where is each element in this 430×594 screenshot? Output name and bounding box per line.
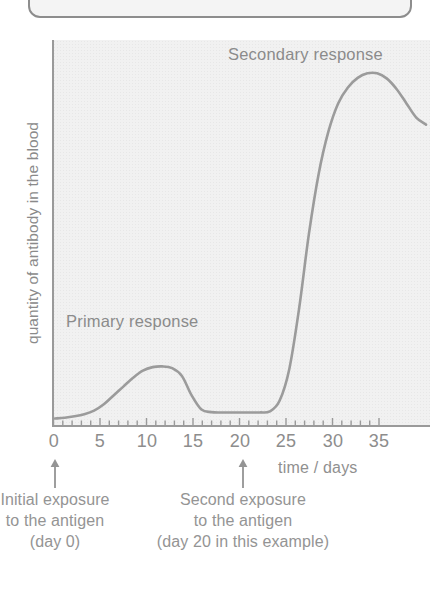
y-axis-line bbox=[52, 40, 54, 426]
antibody-response-curve bbox=[53, 40, 430, 426]
initial-exposure-arrow-icon bbox=[48, 459, 62, 489]
second-exposure-line-1: Second exposure bbox=[145, 489, 341, 510]
x-tick-label-25: 25 bbox=[266, 431, 306, 452]
initial-exposure-line-2: to the antigen bbox=[0, 510, 145, 531]
x-tick-label-15: 15 bbox=[173, 431, 213, 452]
clipped-rounded-box bbox=[28, 0, 412, 18]
x-tick-label-5: 5 bbox=[80, 431, 120, 452]
second-exposure-line-2: to the antigen bbox=[145, 510, 341, 531]
x-tick-label-10: 10 bbox=[127, 431, 167, 452]
x-tick-label-35: 35 bbox=[359, 431, 399, 452]
x-tick-label-0: 0 bbox=[34, 431, 74, 452]
x-tick-label-30: 30 bbox=[313, 431, 353, 452]
initial-exposure-line-1: Initial exposure bbox=[0, 489, 145, 510]
y-axis-label: quantity of antibody in the blood bbox=[24, 40, 42, 426]
plot-area: Secondary response Primary response bbox=[53, 40, 430, 426]
initial-exposure-callout: Initial exposure to the antigen (day 0) bbox=[0, 489, 145, 552]
x-tick-label-20: 20 bbox=[220, 431, 260, 452]
chart-figure: Secondary response Primary response bbox=[0, 0, 430, 594]
second-exposure-line-3: (day 20 in this example) bbox=[145, 531, 341, 552]
initial-exposure-line-3: (day 0) bbox=[0, 531, 145, 552]
secondary-response-label: Secondary response bbox=[228, 45, 383, 64]
second-exposure-arrow-icon bbox=[236, 459, 250, 489]
x-axis-title: time / days bbox=[278, 459, 358, 477]
primary-response-label: Primary response bbox=[66, 312, 199, 331]
x-axis-ticks bbox=[0, 418, 430, 432]
second-exposure-callout: Second exposure to the antigen (day 20 i… bbox=[145, 489, 341, 552]
